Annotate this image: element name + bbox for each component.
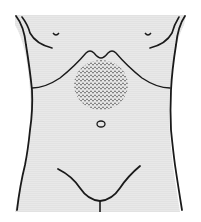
torso-diagram	[0, 0, 201, 222]
torso-illustration	[0, 0, 201, 222]
shaded-region	[74, 60, 128, 110]
